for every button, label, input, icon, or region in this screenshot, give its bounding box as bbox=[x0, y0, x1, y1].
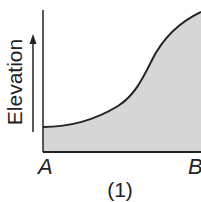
figure-caption: (1) bbox=[107, 178, 133, 202]
elevation-profile-diagram bbox=[0, 0, 201, 202]
up-arrow-icon bbox=[30, 34, 37, 132]
point-a-label: A bbox=[38, 154, 53, 180]
y-axis-label: Elevation bbox=[3, 39, 27, 125]
point-b-label: B bbox=[188, 154, 201, 180]
terrain-fill bbox=[43, 12, 201, 152]
